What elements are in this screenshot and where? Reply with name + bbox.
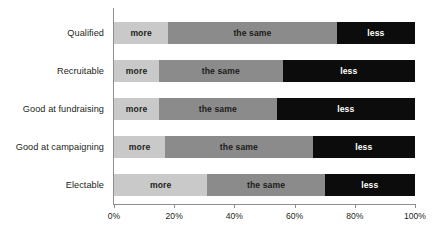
bar-row: morethe sameless <box>114 136 415 158</box>
category-axis-labels: QualifiedRecruitableGood at fundraisingG… <box>0 0 110 205</box>
plot-area: morethe samelessmorethe samelessmorethe … <box>114 8 415 205</box>
x-tick-label: 80% <box>346 211 363 221</box>
x-tick-label: 0% <box>108 211 120 221</box>
bar-segment-the-same: the same <box>159 60 282 82</box>
x-tick-mark <box>234 204 235 208</box>
bar-segment-more: more <box>114 60 159 82</box>
x-tick-mark <box>415 204 416 208</box>
category-label: Recruitable <box>0 66 104 77</box>
category-label: Qualified <box>0 28 104 39</box>
bar-row: morethe sameless <box>114 60 415 82</box>
bar-segment-more: more <box>114 174 207 196</box>
bar-segment-less: less <box>337 22 415 44</box>
bar-segment-the-same: the same <box>168 22 337 44</box>
x-tick-mark <box>295 204 296 208</box>
bar-segment-the-same: the same <box>165 136 312 158</box>
category-label: Electable <box>0 180 104 191</box>
x-tick-mark <box>174 204 175 208</box>
bar-segment-more: more <box>114 136 165 158</box>
x-tick-mark <box>114 204 115 208</box>
bar-segment-the-same: the same <box>207 174 324 196</box>
stacked-bar-chart: QualifiedRecruitableGood at fundraisingG… <box>0 0 438 241</box>
x-axis-ticks: 0%20%40%60%80%100% <box>114 204 415 234</box>
bar-row: morethe sameless <box>114 98 415 120</box>
bar-segment-less: less <box>313 136 415 158</box>
category-label: Good at campaigning <box>0 142 104 153</box>
bar-segment-less: less <box>325 174 415 196</box>
bar-row: morethe sameless <box>114 174 415 196</box>
x-tick-label: 40% <box>226 211 243 221</box>
x-tick-label: 100% <box>404 211 426 221</box>
x-tick-label: 60% <box>286 211 303 221</box>
category-label: Good at fundraising <box>0 104 104 115</box>
bar-segment-the-same: the same <box>159 98 276 120</box>
bar-segment-more: more <box>114 98 159 120</box>
bar-row: morethe sameless <box>114 22 415 44</box>
bar-segment-more: more <box>114 22 168 44</box>
x-tick-mark <box>355 204 356 208</box>
bar-segment-less: less <box>283 60 415 82</box>
x-tick-label: 20% <box>166 211 183 221</box>
bar-segment-less: less <box>277 98 415 120</box>
